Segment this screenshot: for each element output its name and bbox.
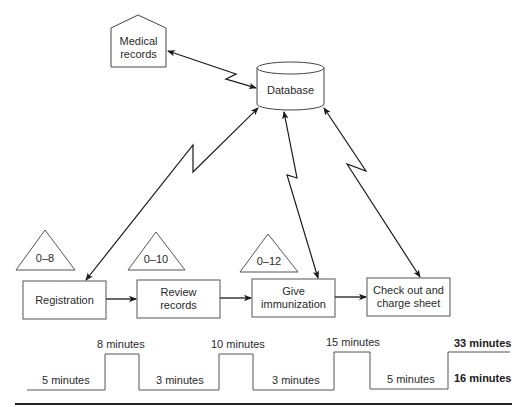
timeline-high-1: 8 minutes — [97, 338, 145, 350]
total-value-added-time: 33 minutes — [454, 337, 511, 349]
timeline-high-3: 15 minutes — [326, 336, 380, 348]
medical-records-label: Medical records — [111, 30, 166, 66]
timeline-low-4: 5 minutes — [387, 373, 435, 385]
inventory-label-1: 0–8 — [25, 252, 65, 265]
process-label-give-immunization: Give immunization — [252, 279, 335, 317]
timeline-low-1: 5 minutes — [42, 374, 90, 386]
total-wait-time: 16 minutes — [454, 372, 511, 384]
electronic-link-database-immunization — [284, 112, 318, 278]
electronic-link-database-checkout — [324, 108, 420, 277]
database-label: Database — [257, 78, 324, 102]
process-label-registration: Registration — [23, 281, 106, 319]
timeline-high-2: 10 minutes — [211, 338, 265, 350]
electronic-link-records-database — [168, 51, 256, 88]
inventory-label-2: 0–10 — [136, 253, 176, 266]
timeline-low-3: 3 minutes — [272, 374, 320, 386]
timeline-line — [27, 352, 510, 390]
process-label-checkout: Check out and charge sheet — [367, 278, 450, 316]
inventory-label-3: 0–12 — [249, 255, 289, 268]
timeline-low-2: 3 minutes — [156, 374, 204, 386]
process-label-review-records: Review records — [137, 280, 220, 318]
